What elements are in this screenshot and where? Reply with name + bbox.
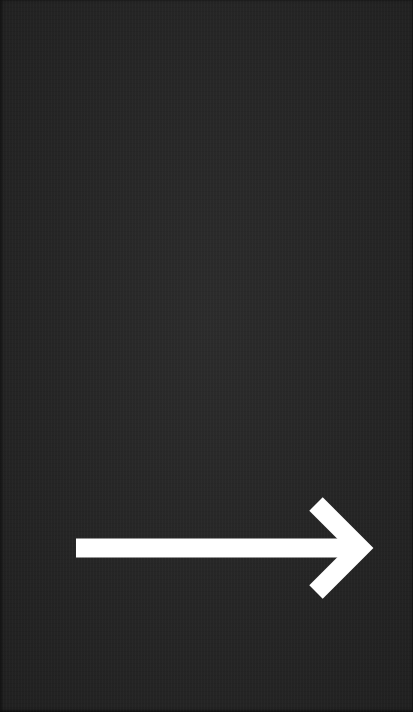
dark-textured-card bbox=[0, 0, 413, 712]
arrow-head bbox=[316, 504, 360, 592]
arrow-right-icon bbox=[0, 0, 413, 712]
